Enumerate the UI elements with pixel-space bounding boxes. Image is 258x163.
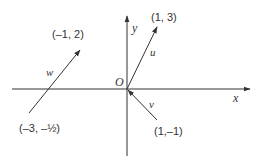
point-label-v-tail: (1,–1) — [154, 125, 183, 137]
vector-u-arrow — [127, 27, 157, 89]
vector-w-label: w⃗ — [46, 66, 62, 78]
point-label-u-head: (1, 3) — [151, 11, 177, 23]
vector-diagram: x y O u⃗ v⃗ w⃗ (1, 3) (1,–1) (–3, –½) (–… — [0, 0, 258, 163]
y-axis-label: y — [131, 21, 138, 35]
point-label-w-tail: (–3, –½) — [19, 122, 60, 134]
point-label-w-head: (–1, 2) — [52, 28, 84, 40]
x-axis-label: x — [232, 91, 239, 105]
vector-w-arrow — [29, 50, 80, 113]
vector-v-label: v⃗ — [149, 98, 162, 110]
origin-label: O — [115, 75, 124, 89]
vector-u-label: u⃗ — [150, 46, 164, 58]
